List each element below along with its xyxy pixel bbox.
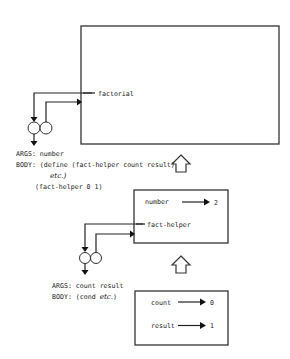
code-pointer-arrowhead — [82, 270, 89, 275]
frame2-binding-count: count — [151, 299, 171, 307]
fact-helper-pointer-arrowhead — [82, 247, 89, 252]
frame1-binding-number-value: 2 — [214, 199, 218, 207]
procedure-code-circle — [28, 122, 40, 134]
procedure-env-circle — [91, 253, 102, 264]
count-value-arrowhead — [200, 299, 206, 306]
procedure-code-circle — [80, 253, 91, 264]
fact-helper-args-label: ARGS: count result — [52, 282, 123, 290]
procedure-env-circle — [40, 122, 52, 134]
body-prefix: BODY: (cond — [52, 293, 100, 301]
code-pointer-arrowhead — [31, 141, 38, 146]
frame2-binding-result-value: 1 — [210, 322, 214, 330]
factorial-binding-label: factorial — [98, 90, 134, 98]
factorial-body-etc: etc.) — [50, 171, 66, 180]
frame2-binding-result: result — [151, 322, 175, 330]
frame1-binding-fact-helper: fact-helper — [147, 221, 191, 229]
body-suffix: ) — [113, 293, 117, 301]
env-pointer-line — [46, 102, 77, 122]
frame2 — [135, 291, 228, 345]
factorial-body-line3: (fact-helper 0 1) — [35, 183, 103, 191]
frame1-enclosing-env-arrow — [172, 155, 190, 172]
env-pointer-line — [96, 234, 130, 253]
factorial-pointer-line — [34, 93, 92, 117]
environment-diagram: factorial ARGS: number BODY: (define (fa… — [0, 0, 290, 359]
frame1-binding-number: number — [145, 198, 169, 206]
global-environment-frame — [81, 26, 279, 144]
factorial-body-line1: BODY: (define (fact-helper count result) — [16, 161, 175, 169]
body-etc: etc. — [100, 292, 113, 301]
number-value-arrowhead — [204, 199, 210, 206]
frame2-binding-count-value: 0 — [210, 299, 214, 307]
factorial-procedure-object — [28, 93, 92, 146]
factorial-args-label: ARGS: number — [16, 150, 64, 158]
frame2-enclosing-env-arrow — [172, 256, 190, 273]
result-value-arrowhead — [200, 322, 206, 329]
fact-helper-body-line: BODY: (cond etc.) — [52, 292, 117, 301]
factorial-pointer-arrowhead — [31, 117, 38, 122]
